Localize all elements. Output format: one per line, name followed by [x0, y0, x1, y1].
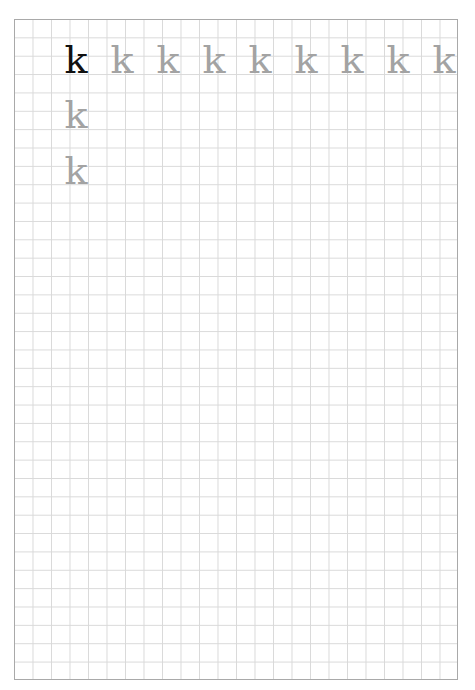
trace-letter: k — [110, 41, 134, 79]
model-letter: k — [64, 41, 88, 79]
trace-letter: k — [386, 41, 410, 79]
trace-letter: k — [294, 41, 318, 79]
trace-letter: k — [64, 152, 88, 190]
trace-letter: k — [156, 41, 180, 79]
trace-letter: k — [202, 41, 226, 79]
trace-letter: k — [248, 41, 272, 79]
trace-letter: k — [340, 41, 364, 79]
trace-letter: k — [64, 96, 88, 134]
trace-letter: k — [432, 41, 456, 79]
